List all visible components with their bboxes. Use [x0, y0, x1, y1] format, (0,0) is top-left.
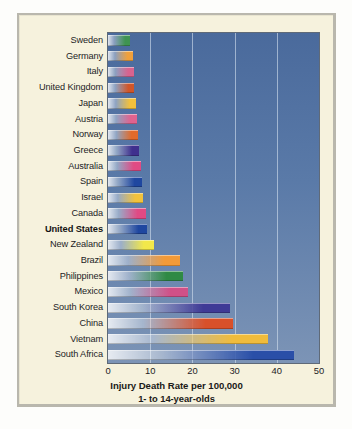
axis-tick-label: 0	[105, 365, 110, 376]
bar-row	[108, 159, 319, 174]
axis-tick-label: 40	[272, 365, 282, 376]
bar	[108, 98, 136, 108]
bar-row	[108, 347, 319, 362]
bar-row	[108, 49, 319, 64]
bar	[108, 161, 141, 171]
category-label: Japan	[78, 96, 103, 111]
bar-row	[108, 284, 319, 299]
plot-area	[108, 33, 319, 363]
bar	[108, 130, 138, 140]
bar	[108, 208, 146, 218]
bar-row	[108, 332, 319, 347]
category-label: Spain	[80, 174, 103, 189]
category-label: Greece	[73, 143, 103, 158]
category-label: Israel	[81, 190, 103, 205]
category-label: South Africa	[55, 347, 103, 362]
bar	[108, 255, 180, 265]
bar	[108, 318, 233, 328]
bar	[108, 224, 147, 234]
bar-row	[108, 112, 319, 127]
axis-tick-label: 50	[314, 365, 324, 376]
bar	[108, 114, 137, 124]
bar-row	[108, 80, 319, 95]
category-label: Sweden	[70, 33, 103, 48]
category-label: Vietnam	[70, 332, 103, 347]
value-axis-ticks: 01020304050	[108, 365, 319, 379]
bar-chart: SwedenGermanyItalyUnited KingdomJapanAus…	[20, 16, 333, 404]
bar-row	[108, 269, 319, 284]
axis-title-line1: Injury Death Rate per 100,000	[20, 380, 333, 393]
axis-title-line2: 1- to 14-year-olds	[20, 393, 333, 406]
bar	[108, 303, 230, 313]
bar-row	[108, 206, 319, 221]
figure-panel: SwedenGermanyItalyUnited KingdomJapanAus…	[19, 15, 333, 404]
category-label: United States	[45, 222, 103, 237]
bar	[108, 240, 154, 250]
bar-row	[108, 253, 319, 268]
bar-row	[108, 96, 319, 111]
bar	[108, 83, 134, 93]
chart-figure: SwedenGermanyItalyUnited KingdomJapanAus…	[0, 0, 352, 429]
category-label: China	[79, 316, 103, 331]
category-label: Australia	[68, 159, 103, 174]
category-label: Brazil	[81, 253, 103, 268]
bar-row	[108, 190, 319, 205]
category-label: Austria	[75, 112, 103, 127]
category-axis-labels: SwedenGermanyItalyUnited KingdomJapanAus…	[20, 33, 106, 363]
bar-row	[108, 222, 319, 237]
bar	[108, 334, 268, 344]
axis-title: Injury Death Rate per 100,000 1- to 14-y…	[20, 380, 333, 405]
bar-row	[108, 316, 319, 331]
axis-tick-label: 30	[229, 365, 239, 376]
category-label: United Kingdom	[39, 80, 103, 95]
bar	[108, 193, 143, 203]
bar-row	[108, 64, 319, 79]
bar	[108, 67, 134, 77]
category-label: Canada	[71, 206, 103, 221]
bar	[108, 35, 130, 45]
bar-row	[108, 127, 319, 142]
bar	[108, 145, 139, 155]
category-label: Italy	[87, 64, 103, 79]
category-label: New Zealand	[50, 237, 103, 252]
bar-row	[108, 33, 319, 48]
bar	[108, 177, 142, 187]
bar	[108, 287, 188, 297]
category-label: Mexico	[74, 284, 103, 299]
bar	[108, 271, 183, 281]
bar-row	[108, 143, 319, 158]
axis-tick-label: 20	[187, 365, 197, 376]
category-label: Philippines	[60, 269, 103, 284]
category-label: South Korea	[53, 300, 103, 315]
category-label: Norway	[72, 127, 103, 142]
bar-row	[108, 237, 319, 252]
bar-row	[108, 174, 319, 189]
category-label: Germany	[66, 49, 103, 64]
bar	[108, 51, 133, 61]
bar-row	[108, 300, 319, 315]
axis-tick-label: 10	[145, 365, 155, 376]
bar	[108, 350, 294, 360]
